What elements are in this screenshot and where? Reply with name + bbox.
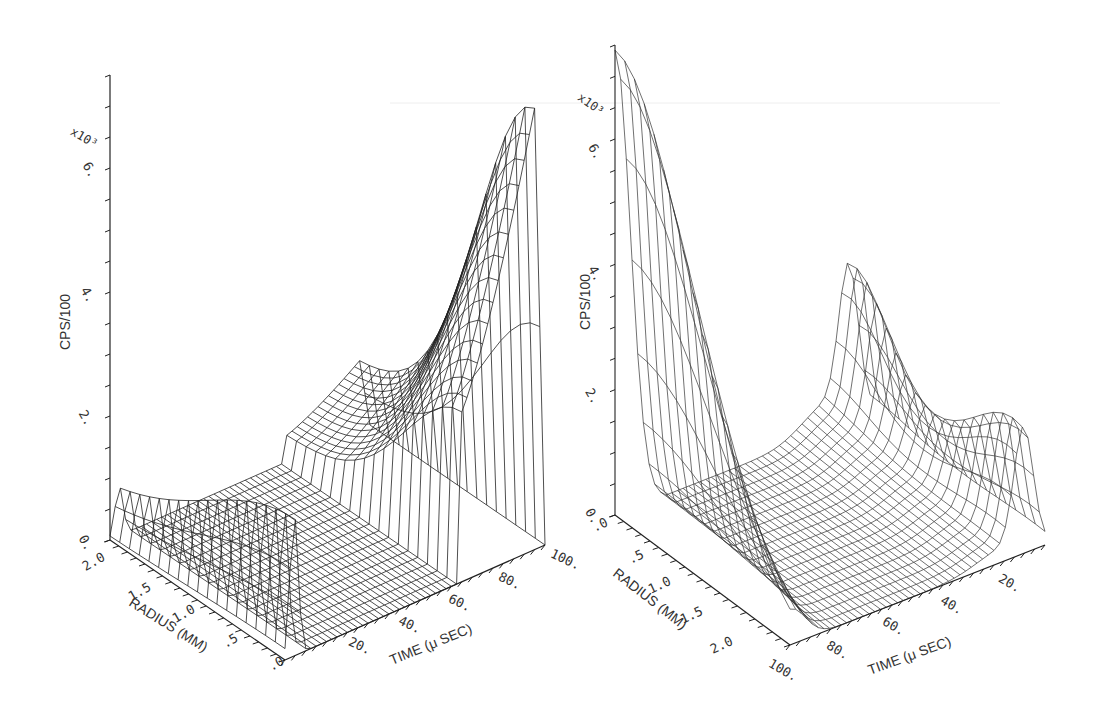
right-wireframe-surface <box>615 50 1045 629</box>
left-radius-tick-0.0: .0 <box>266 653 287 674</box>
left-surface-plot: 0. 2. 4. 6. x10³ CPS/100 2.0 1.5 1.0 .5 … <box>57 75 583 674</box>
left-radius-tick-0.5: .5 <box>220 630 241 651</box>
right-z-tick-6: 6. <box>585 141 606 162</box>
left-z-tick-0: 0. <box>76 532 97 553</box>
left-time-tick-20: 20. <box>346 634 374 658</box>
right-radius-tick-2.0: 2.0 <box>708 633 736 657</box>
left-z-tick-6: 6. <box>80 159 101 180</box>
right-z-scale-label: x10³ <box>575 90 607 118</box>
left-radius-axis-label: RADIUS (MM) <box>126 594 210 655</box>
right-time-tick-60: 60. <box>880 614 908 639</box>
left-z-axis <box>105 75 110 542</box>
left-time-tick-100: 100. <box>548 546 583 573</box>
right-radius-tick-0.5: .5 <box>626 547 647 567</box>
right-radius-axis-label: RADIUS (MM) <box>610 565 690 633</box>
left-z-tick-2: 2. <box>76 407 97 428</box>
right-z-axis-label: CPS/100 <box>577 274 593 330</box>
right-time-tick-20: 20. <box>996 571 1024 596</box>
left-time-tick-40: 40. <box>396 613 424 637</box>
left-z-tick-4: 4. <box>78 284 99 305</box>
right-time-tick-100: 100. <box>766 656 801 685</box>
right-surface-plot: 0. 2. 4. 6. x10³ CPS/100 .0 .5 1.0 1.5 2… <box>575 45 1045 684</box>
right-time-tick-40: 40. <box>938 593 966 618</box>
figure-canvas: 0. 2. 4. 6. x10³ CPS/100 2.0 1.5 1.0 .5 … <box>0 0 1100 721</box>
right-z-axis <box>610 45 615 517</box>
right-time-tick-80: 80. <box>824 638 852 663</box>
right-z-tick-2: 2. <box>582 386 603 407</box>
left-wireframe-surface <box>110 107 545 648</box>
left-time-tick-60: 60. <box>446 591 474 615</box>
right-time-axis <box>790 545 1045 645</box>
left-time-tick-80: 80. <box>496 569 524 593</box>
left-z-axis-label: CPS/100 <box>57 294 73 350</box>
right-time-axis-label: TIME (μ SEC) <box>866 633 954 678</box>
left-z-scale-label: x10³ <box>68 124 100 151</box>
